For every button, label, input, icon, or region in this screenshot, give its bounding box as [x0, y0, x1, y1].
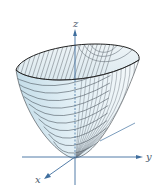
z-axis-arrow — [73, 29, 77, 36]
x-axis-label: x — [35, 174, 41, 185]
y-axis-arrow — [136, 155, 143, 159]
x-axis-arrow — [44, 173, 51, 179]
z-axis-label: z — [72, 18, 79, 29]
y-axis-label: y — [145, 151, 152, 162]
paraboloid-figure: z y x — [0, 0, 166, 195]
x-axis — [48, 157, 75, 176]
paraboloid-diagram: z y x — [0, 0, 166, 195]
